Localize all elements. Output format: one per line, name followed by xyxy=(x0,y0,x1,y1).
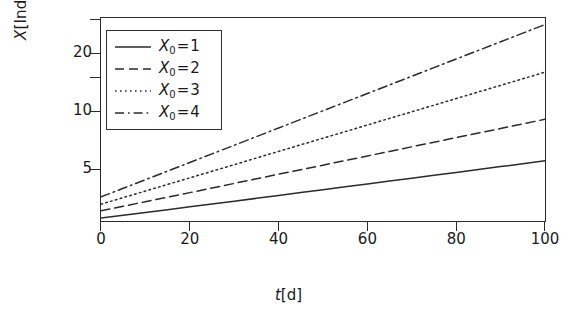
x-tick-label: 80 xyxy=(426,232,486,247)
legend-item-3: X0=3 xyxy=(114,80,215,102)
legend-line-sample-3 xyxy=(114,85,152,97)
legend-subscript-1: 0 xyxy=(169,45,175,56)
legend-item-2: X0=2 xyxy=(114,58,215,80)
legend-label-1: X0=1 xyxy=(159,39,200,56)
y-tick-label: 20 xyxy=(50,45,92,60)
x-tick-label: 0 xyxy=(71,232,131,247)
x-tick-label: 60 xyxy=(337,232,397,247)
legend-subscript-4: 0 xyxy=(169,111,175,122)
legend-subscript-2: 0 xyxy=(169,67,175,78)
legend-label-2: X0=2 xyxy=(159,61,200,78)
y-tick-label-group: 51020 xyxy=(30,0,92,317)
legend-label-3: X0=3 xyxy=(159,83,200,100)
x-axis-label-unit: [d] xyxy=(281,286,302,304)
y-tick-label: 5 xyxy=(50,161,92,176)
y-axis-label-symbol: X xyxy=(12,30,30,40)
y-tick-mark xyxy=(90,169,100,170)
legend-label-4: X0=4 xyxy=(159,105,200,122)
y-axis-label-unit: [Indiv] xyxy=(12,0,30,30)
y-tick-mark xyxy=(90,111,100,112)
legend-equals-3: = xyxy=(177,81,190,99)
legend-box: X0=1X0=2X0=3X0=4 xyxy=(106,30,222,130)
legend-line-sample-4 xyxy=(114,107,152,119)
legend-equals-1: = xyxy=(177,37,190,55)
legend-equals-4: = xyxy=(177,103,190,121)
series-line-2 xyxy=(101,119,545,211)
series-line-1 xyxy=(101,161,545,218)
legend-equals-2: = xyxy=(177,59,190,77)
legend-symbol-3: X xyxy=(159,81,169,99)
legend-symbol-1: X xyxy=(159,37,169,55)
x-axis-label: t[d] xyxy=(0,286,577,304)
x-tick-label: 20 xyxy=(160,232,220,247)
x-tick-label: 40 xyxy=(249,232,309,247)
legend-line-sample-2 xyxy=(114,63,152,75)
y-tick-label: 10 xyxy=(50,103,92,118)
legend-value-1: 1 xyxy=(190,37,200,55)
legend-symbol-4: X xyxy=(159,103,169,121)
x-tick-label: 100 xyxy=(515,232,575,247)
y-tick-mark xyxy=(90,77,100,78)
legend-symbol-2: X xyxy=(159,59,169,77)
chart-figure: X[Indiv] 51020 020406080100 X0=1X0=2X0=3… xyxy=(0,0,577,317)
y-tick-mark xyxy=(90,19,100,20)
legend-line-sample-1 xyxy=(114,41,152,53)
legend-value-3: 3 xyxy=(190,81,200,99)
y-tick-mark xyxy=(90,53,100,54)
legend-item-1: X0=1 xyxy=(114,36,215,58)
legend-value-4: 4 xyxy=(190,103,200,121)
legend-item-4: X0=4 xyxy=(114,102,215,124)
legend-value-2: 2 xyxy=(190,59,200,77)
legend-subscript-3: 0 xyxy=(169,89,175,100)
